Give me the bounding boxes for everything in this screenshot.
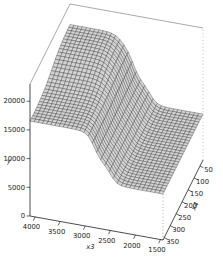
x-tick: [109, 230, 111, 234]
persp-surface-plot: 400035003000250020001500x335030025020015…: [0, 0, 223, 262]
x-tick: [134, 235, 136, 239]
x-tick-label: 2500: [98, 237, 115, 245]
x-tick-label: 3000: [73, 232, 90, 240]
surface-mesh: [30, 25, 203, 195]
y-tick: [200, 166, 203, 168]
z-tick-label: 5000: [8, 184, 25, 192]
z-tick-label: 0: [21, 212, 25, 220]
x-tick-label: 4000: [23, 223, 40, 231]
plot-figure: 400035003000250020001500x335030025020015…: [0, 0, 223, 262]
z-tick-label: 15000: [3, 126, 25, 134]
y-tick-label: 150: [190, 190, 203, 198]
y-tick-label: 50: [204, 166, 213, 174]
y-tick-label: 100: [196, 178, 209, 186]
x-tick: [159, 240, 161, 244]
x-tick: [83, 226, 85, 230]
x-tick: [33, 217, 35, 221]
y-tick-label: 250: [178, 214, 191, 222]
z-tick-label: 20000: [3, 97, 25, 105]
x-tick-label: 2000: [123, 242, 140, 250]
x-tick: [58, 221, 60, 225]
x-tick-label: 1500: [148, 246, 165, 254]
x-tick-label: 3500: [48, 228, 65, 236]
y-tick-label: 350: [166, 238, 179, 246]
x-axis-title: x3: [85, 243, 94, 251]
y-tick-label: 300: [172, 226, 185, 234]
